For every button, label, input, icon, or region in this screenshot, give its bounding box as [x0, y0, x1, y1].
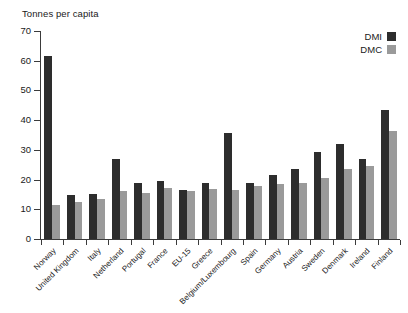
x-tick	[288, 240, 289, 245]
bar	[359, 159, 367, 239]
x-tick	[221, 240, 222, 245]
y-tick	[34, 150, 40, 151]
bar	[344, 169, 352, 239]
y-tick-label: 20	[6, 175, 31, 185]
y-tick	[34, 120, 40, 121]
bar	[366, 166, 374, 239]
x-tick	[310, 240, 311, 245]
bar	[187, 191, 195, 239]
legend-label: DMC	[360, 45, 382, 55]
bar	[291, 169, 299, 239]
y-tick	[34, 61, 40, 62]
x-tick	[176, 240, 177, 245]
y-tick	[34, 90, 40, 91]
x-tick	[355, 240, 356, 245]
bar	[336, 144, 344, 239]
y-tick-label: 70	[6, 26, 31, 36]
legend-item[interactable]: DMC	[340, 43, 396, 56]
x-tick	[400, 240, 401, 245]
bar	[321, 178, 329, 239]
x-tick	[198, 240, 199, 245]
plot-area	[41, 31, 400, 239]
bar	[269, 175, 277, 239]
bar	[157, 181, 165, 239]
bar	[246, 183, 254, 239]
bar	[67, 195, 75, 239]
x-tick	[333, 240, 334, 245]
bar	[75, 202, 83, 239]
bar	[89, 194, 97, 239]
bar	[112, 159, 120, 239]
x-tick	[265, 240, 266, 245]
legend-label: DMI	[365, 32, 382, 42]
x-tick	[108, 240, 109, 245]
y-tick-label: 0	[6, 234, 31, 244]
y-tick-label: 50	[6, 85, 31, 95]
bar	[209, 189, 217, 239]
bar	[299, 183, 307, 239]
x-tick	[378, 240, 379, 245]
x-tick	[243, 240, 244, 245]
bar	[314, 152, 322, 239]
bar	[134, 183, 142, 239]
y-tick-label: 10	[6, 204, 31, 214]
x-tick	[63, 240, 64, 245]
legend-swatch	[387, 32, 396, 41]
bar	[164, 188, 172, 239]
legend-item[interactable]: DMI	[340, 30, 396, 43]
x-tick	[41, 240, 42, 245]
bar	[381, 110, 389, 239]
legend-swatch	[387, 45, 396, 54]
bar	[202, 183, 210, 239]
bar-chart: Tonnes per capita 010203040506070 Norway…	[0, 0, 408, 313]
y-axis-title: Tonnes per capita	[22, 8, 99, 19]
bar	[389, 131, 397, 239]
bar	[142, 193, 150, 239]
bar	[120, 191, 128, 239]
x-tick	[86, 240, 87, 245]
bar	[232, 190, 240, 239]
y-tick-label: 40	[6, 115, 31, 125]
y-tick	[34, 31, 40, 32]
bar	[52, 205, 60, 239]
y-tick-label: 60	[6, 56, 31, 66]
y-tick	[34, 209, 40, 210]
bar	[277, 184, 285, 239]
x-tick	[131, 240, 132, 245]
bar	[179, 190, 187, 239]
y-tick	[34, 180, 40, 181]
y-tick	[34, 239, 40, 240]
bar	[97, 199, 105, 239]
bar	[224, 133, 232, 239]
x-tick	[153, 240, 154, 245]
bar	[254, 186, 262, 239]
y-tick-label: 30	[6, 145, 31, 155]
bar	[44, 56, 52, 239]
chart-legend: DMIDMC	[340, 30, 396, 56]
